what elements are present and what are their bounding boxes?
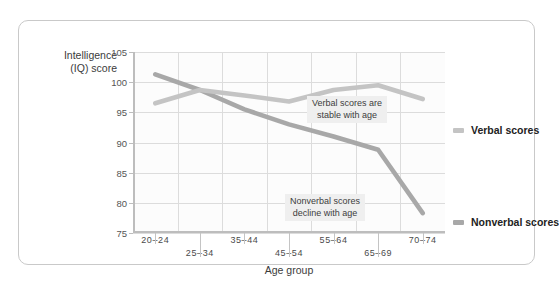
x-tick-mark bbox=[423, 233, 424, 244]
legend-swatch-nonverbal-scores bbox=[453, 220, 464, 225]
x-tick-mark bbox=[378, 233, 379, 257]
x-axis-title: Age group bbox=[129, 264, 449, 276]
chart-card: Intelligence (IQ) score Verbal scores ar… bbox=[18, 20, 535, 265]
x-tick-mark bbox=[334, 233, 335, 244]
legend-label-nonverbal-scores: Nonverbal scores bbox=[471, 216, 559, 228]
legend-item-verbal-scores[interactable]: Verbal scores bbox=[453, 124, 539, 136]
x-tick-mark bbox=[200, 233, 201, 257]
legend-item-nonverbal-scores[interactable]: Nonverbal scores bbox=[453, 216, 559, 228]
legend-label-verbal-scores: Verbal scores bbox=[471, 124, 539, 136]
x-tick-mark bbox=[244, 233, 245, 244]
x-tick-mark bbox=[289, 233, 290, 257]
legend-swatch-verbal-scores bbox=[453, 128, 464, 133]
x-tick-mark bbox=[155, 233, 156, 244]
